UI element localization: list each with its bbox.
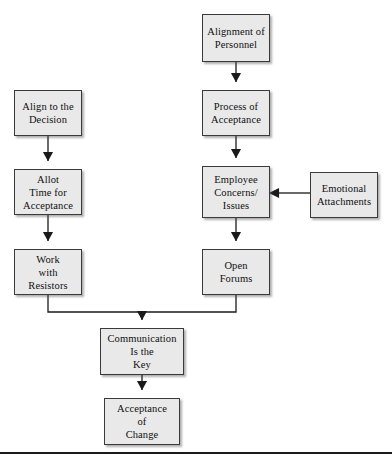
node-emotional-attachments[interactable]: Emotional Attachments [310, 172, 378, 218]
node-employee-concerns-issues[interactable]: Employee Concerns/ Issues [202, 166, 270, 218]
node-open-forums[interactable]: Open Forums [202, 249, 270, 295]
node-communication-is-the-key[interactable]: Communication Is the Key [100, 328, 184, 375]
edge-open-forums-merge [142, 295, 236, 312]
node-acceptance-of-change[interactable]: Acceptance of Change [104, 398, 180, 445]
edge-work-with-resistors-merge [48, 295, 142, 312]
node-alignment-of-personnel[interactable]: Alignment of Personnel [202, 14, 270, 62]
flowchart-connectors [0, 0, 392, 462]
node-work-with-resistors[interactable]: Work with Resistors [14, 249, 82, 295]
node-align-to-the-decision[interactable]: Align to the Decision [14, 90, 82, 136]
flowchart-diagram: Alignment of Personnel Process of Accept… [0, 0, 392, 462]
node-allot-time-for-acceptance[interactable]: Allot Time for Acceptance [14, 169, 82, 215]
node-process-of-acceptance[interactable]: Process of Acceptance [202, 90, 270, 136]
bottom-rule [0, 452, 392, 454]
